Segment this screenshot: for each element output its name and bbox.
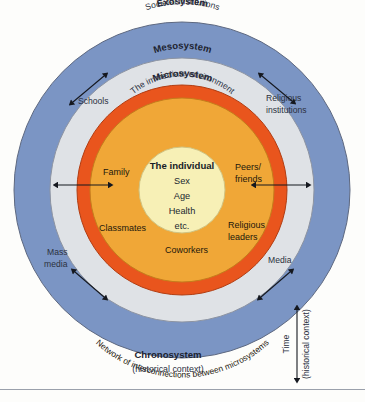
bottom-divider [0,389,365,390]
core-item-etc: etc. [175,221,190,231]
exosystem-item-schools: Schools [78,96,109,106]
microsystem-item-peers: Peers/ [235,162,262,172]
core-item-health: Health [169,206,196,216]
sublabel-exosystem: Societal institutions [144,0,221,12]
time-axis-label: Time [281,334,291,353]
time-axis-sublabel: (historical context) [301,309,311,379]
microsystem-item-peers-line2: friends [235,174,263,184]
ecological-systems-diagram: Macrosystem Cultural beliefs and values … [0,0,365,402]
microsystem-item-religious-leaders: Religious [228,220,266,230]
chronosystem-subtitle: (historical context) [132,364,203,374]
microsystem-item-family: Family [103,167,130,177]
microsystem-item-coworkers: Coworkers [165,245,209,255]
core-item-sex: Sex [174,176,190,186]
microsystem-item-religious-leaders-line2: leaders [228,232,258,242]
core-title: The individual [150,160,215,171]
diagram-canvas: Macrosystem Cultural beliefs and values … [0,0,365,402]
microsystem-item-classmates: Classmates [99,223,147,233]
exosystem-item-media: Media [268,255,292,265]
exosystem-item-mass-media: Mass [47,247,68,257]
exosystem-item-religious-institutions-line2: institutions [266,105,307,115]
exosystem-item-mass-media-line2: media [44,259,68,269]
chronosystem-title: Chronosystem [134,349,201,360]
core-item-age: Age [174,191,190,201]
